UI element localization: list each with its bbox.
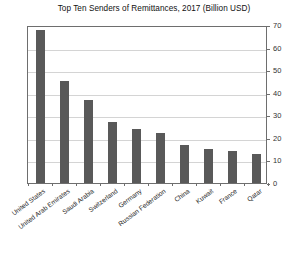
y-tick-label: 0: [273, 180, 277, 188]
plot-area: [27, 26, 267, 184]
y-tick: [267, 71, 270, 72]
x-tick-label: France: [219, 188, 239, 206]
x-tick-label: Qatar: [246, 188, 263, 203]
y-tick: [267, 116, 270, 117]
y-tick: [267, 139, 270, 140]
y-tick-label: 30: [273, 113, 281, 121]
x-tick-label: China: [173, 188, 191, 204]
y-tick: [267, 94, 270, 95]
y-tick: [267, 184, 270, 185]
y-tick-label: 40: [273, 90, 281, 98]
x-tick-label: Kuwait: [195, 188, 215, 205]
y-tick-label: 10: [273, 158, 281, 166]
x-tick-marks: [28, 27, 266, 183]
y-tick-label: 50: [273, 67, 281, 75]
chart-title: Top Ten Senders of Remittances, 2017 (Bi…: [0, 4, 308, 13]
y-tick: [267, 161, 270, 162]
chart-figure: Top Ten Senders of Remittances, 2017 (Bi…: [0, 0, 308, 254]
x-axis: United StatesUnited Arab EmiratesSaudi A…: [27, 184, 267, 254]
y-axis: 010203040506070: [267, 26, 307, 184]
y-tick-label: 70: [273, 22, 281, 30]
y-tick-label: 20: [273, 135, 281, 143]
y-tick: [267, 26, 270, 27]
y-tick: [267, 49, 270, 50]
y-tick-label: 60: [273, 45, 281, 53]
